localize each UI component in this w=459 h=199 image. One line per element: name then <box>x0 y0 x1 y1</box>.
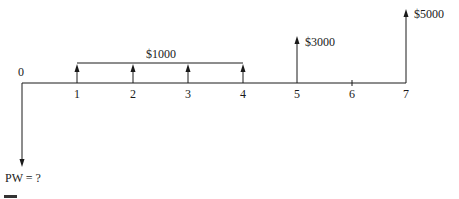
annuity-1000: $1000 <box>75 47 246 83</box>
period-label-0: 0 <box>18 65 24 79</box>
period-label-6: 6 <box>349 87 355 101</box>
present-worth-label: PW = ? <box>5 171 41 185</box>
cash-flow-label-7: $5000 <box>414 7 444 21</box>
arrowhead-up-icon <box>186 64 191 72</box>
period-label-5: 5 <box>294 87 300 101</box>
cash-flow-diagram: 0 1 2 3 4 5 6 7 $1000 $3000 $5000 PW = ? <box>0 0 459 199</box>
annuity-label: $1000 <box>146 47 176 61</box>
cash-flow-5000: $5000 <box>404 7 445 83</box>
arrowhead-up-icon <box>404 9 409 17</box>
period-label-1: 1 <box>74 87 80 101</box>
arrowhead-up-icon <box>131 64 136 72</box>
cash-flow-label-5: $3000 <box>305 35 335 49</box>
present-worth: PW = ? <box>5 83 41 185</box>
period-label-3: 3 <box>185 87 191 101</box>
period-label-4: 4 <box>240 87 246 101</box>
decorative-bar <box>4 195 17 198</box>
period-label-2: 2 <box>130 87 136 101</box>
period-label-7: 7 <box>403 87 409 101</box>
arrowhead-up-icon <box>295 36 300 44</box>
cash-flow-3000: $3000 <box>295 35 336 83</box>
arrowhead-up-icon <box>75 64 80 72</box>
arrowhead-up-icon <box>241 64 246 72</box>
arrowhead-down-icon <box>20 159 25 167</box>
